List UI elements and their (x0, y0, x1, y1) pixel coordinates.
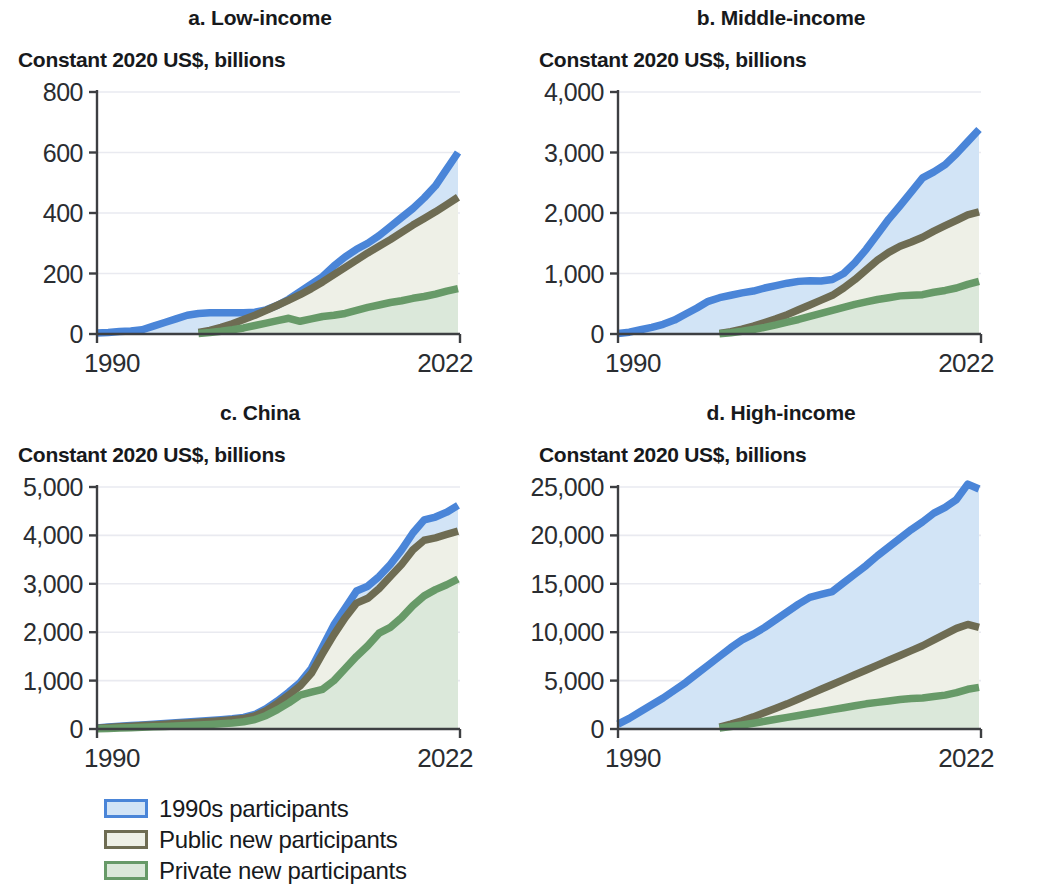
y-tick-label: 2,000 (544, 199, 604, 227)
panel-c-axis-label: Constant 2020 US$, billions (18, 443, 285, 467)
panel-b-axis-label: Constant 2020 US$, billions (539, 48, 806, 72)
x-tick-label: 1990 (605, 743, 661, 773)
panel-c-title: c. China (0, 401, 520, 425)
legend-swatch-private-new-participants (104, 861, 148, 880)
y-tick-label: 25,000 (531, 477, 604, 501)
y-tick-label: 1,000 (23, 667, 83, 695)
y-tick-label: 2,000 (23, 618, 83, 646)
legend-item-public-new-participants: Public new participants (104, 824, 624, 855)
x-tick-label: 1990 (84, 348, 140, 378)
panel-d-title: d. High-income (521, 401, 1041, 425)
legend-label-private-new-participants: Private new participants (159, 859, 407, 883)
y-tick-label: 3,000 (544, 139, 604, 167)
legend-swatch-public-new-participants (104, 830, 148, 849)
x-tick-label: 2022 (417, 743, 473, 773)
y-tick-label: 800 (43, 82, 83, 106)
panel-b-middle-income: b. Middle-income Constant 2020 US$, bill… (521, 0, 1041, 395)
panel-c-plot: 01,0002,0003,0004,0005,00019902022 (0, 477, 520, 777)
legend-swatch-1990s-participants (104, 799, 148, 818)
y-tick-label: 0 (70, 320, 83, 348)
multi-panel-area-chart-figure: a. Low-income Constant 2020 US$, billion… (0, 0, 1041, 889)
panel-a-axis-label: Constant 2020 US$, billions (18, 48, 285, 72)
y-tick-label: 4,000 (544, 82, 604, 106)
y-tick-label: 200 (43, 260, 83, 288)
panel-d-plot: 05,00010,00015,00020,00025,00019902022 (521, 477, 1041, 777)
chart-legend: 1990s participants Public new participan… (104, 793, 624, 886)
y-tick-label: 0 (591, 715, 604, 743)
panel-b-title: b. Middle-income (521, 6, 1041, 30)
panel-d-axis-label: Constant 2020 US$, billions (539, 443, 806, 467)
legend-item-private-new-participants: Private new participants (104, 855, 624, 886)
panel-b-plot: 01,0002,0003,0004,00019902022 (521, 82, 1041, 382)
y-tick-label: 20,000 (531, 521, 604, 549)
y-tick-label: 5,000 (23, 477, 83, 501)
x-tick-label: 2022 (938, 743, 994, 773)
panel-d-high-income: d. High-income Constant 2020 US$, billio… (521, 395, 1041, 790)
y-tick-label: 0 (591, 320, 604, 348)
legend-item-1990s-participants: 1990s participants (104, 793, 624, 824)
x-tick-label: 2022 (938, 348, 994, 378)
panel-a-title: a. Low-income (0, 6, 520, 30)
y-tick-label: 4,000 (23, 521, 83, 549)
panel-a-plot: 020040060080019902022 (0, 82, 520, 382)
panel-c-china: c. China Constant 2020 US$, billions 01,… (0, 395, 520, 790)
x-tick-label: 1990 (84, 743, 140, 773)
y-tick-label: 10,000 (531, 618, 604, 646)
x-tick-label: 2022 (417, 348, 473, 378)
legend-label-1990s-participants: 1990s participants (159, 797, 348, 821)
y-tick-label: 1,000 (544, 260, 604, 288)
y-tick-label: 0 (70, 715, 83, 743)
y-tick-label: 400 (43, 199, 83, 227)
x-tick-label: 1990 (605, 348, 661, 378)
panel-a-low-income: a. Low-income Constant 2020 US$, billion… (0, 0, 520, 395)
legend-label-public-new-participants: Public new participants (159, 828, 398, 852)
y-tick-label: 5,000 (544, 667, 604, 695)
y-tick-label: 600 (43, 139, 83, 167)
y-tick-label: 15,000 (531, 570, 604, 598)
y-tick-label: 3,000 (23, 570, 83, 598)
